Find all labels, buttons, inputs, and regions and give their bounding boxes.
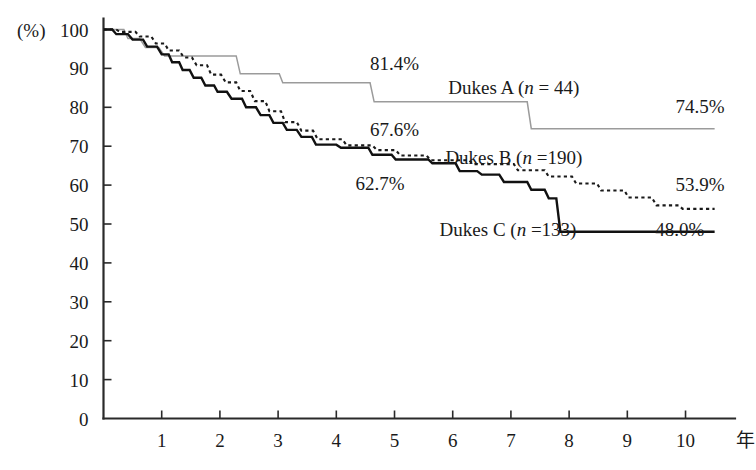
annotation-dukes-b-label: Dukes B (n =190) xyxy=(445,147,582,169)
chart-canvas: 0102030405060708090100 12345678910 (%) 年… xyxy=(0,0,756,470)
annotation-dukes-c-endpoint: 48.0% xyxy=(655,219,704,240)
y-axis-tick-label-80: 80 xyxy=(70,97,89,118)
y-axis-tick-label-20: 20 xyxy=(70,331,89,352)
x-axis-tick-label-3: 3 xyxy=(273,430,283,451)
y-axis-tick-label-70: 70 xyxy=(70,136,89,157)
y-axis-tick-label-90: 90 xyxy=(70,58,89,79)
annotation-dukes-b-midpoint: 67.6% xyxy=(370,119,419,140)
y-axis-tick-labels: 0102030405060708090100 xyxy=(60,20,89,430)
annotation-dukes-a-label: Dukes A (n = 44) xyxy=(448,77,579,99)
x-axis-tick-labels: 12345678910 xyxy=(157,430,695,451)
x-axis-tick-marks xyxy=(162,411,686,419)
x-axis-tick-label-2: 2 xyxy=(215,430,225,451)
x-axis-tick-label-4: 4 xyxy=(332,430,342,451)
x-axis-tick-label-9: 9 xyxy=(623,430,633,451)
annotation-dukes-c-midpoint: 62.7% xyxy=(355,173,404,194)
x-axis-tick-label-5: 5 xyxy=(390,430,400,451)
annotation-dukes-c-label: Dukes C (n =133) xyxy=(440,219,577,241)
y-axis-tick-label-40: 40 xyxy=(70,253,89,274)
x-axis-unit-label: 年 xyxy=(736,430,755,451)
y-axis-tick-label-50: 50 xyxy=(70,214,89,235)
y-axis-tick-label-10: 10 xyxy=(70,370,89,391)
y-axis-tick-marks xyxy=(104,30,112,380)
y-axis-tick-label-100: 100 xyxy=(60,20,89,41)
survival-curve-chart: 0102030405060708090100 12345678910 (%) 年… xyxy=(0,0,756,470)
curve-dukes-a xyxy=(104,30,715,129)
x-axis-tick-label-1: 1 xyxy=(157,430,167,451)
annotation-dukes-b-endpoint: 53.9% xyxy=(676,174,725,195)
y-axis-tick-label-60: 60 xyxy=(70,175,89,196)
y-axis-tick-label-30: 30 xyxy=(70,292,89,313)
annotation-dukes-a-midpoint: 81.4% xyxy=(370,53,419,74)
annotation-dukes-a-endpoint: 74.5% xyxy=(676,96,725,117)
x-axis-tick-label-10: 10 xyxy=(676,430,695,451)
curve-annotations: 81.4%Dukes A (n = 44)74.5%67.6%Dukes B (… xyxy=(355,53,724,240)
x-axis-tick-label-6: 6 xyxy=(448,430,458,451)
x-axis-tick-label-8: 8 xyxy=(564,430,574,451)
y-axis-tick-label-0: 0 xyxy=(79,409,89,430)
y-axis-unit-label: (%) xyxy=(17,20,45,42)
x-axis-tick-label-7: 7 xyxy=(506,430,516,451)
